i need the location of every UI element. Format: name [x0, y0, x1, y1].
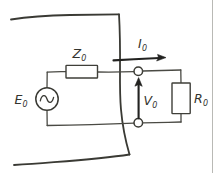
source-label-sub: 0 [23, 100, 28, 109]
output-terminal-bottom-circle [134, 118, 143, 127]
wire-load-top [143, 70, 181, 71]
circuit-diagram-canvas: Z0 E0 I0 V0 R0 [0, 0, 220, 173]
series-impedance-box [66, 65, 98, 78]
current-label-sub: 0 [142, 44, 147, 53]
output-terminal-top-circle [134, 67, 143, 76]
boundary-top-edge [11, 14, 119, 19]
boundary-vertical-edge [119, 14, 130, 154]
impedance-label: Z0 [72, 46, 87, 63]
wire-top-left-segment [47, 72, 66, 73]
impedance-label-base: Z [72, 46, 82, 61]
circuit-diagram-svg: Z0 E0 I0 V0 R0 [0, 0, 220, 173]
load-label-sub: 0 [203, 99, 208, 108]
boundary-bottom-edge [14, 155, 130, 166]
current-label: I0 [138, 36, 147, 53]
load-resistor-box [172, 83, 190, 114]
load-label-base: R [194, 91, 203, 106]
wire-bottom-rail [47, 123, 134, 125]
voltage-label-sub: 0 [152, 101, 157, 110]
source-label: E0 [15, 92, 28, 109]
impedance-label-sub: 0 [81, 54, 86, 63]
source-label-base: E [15, 92, 23, 107]
voltage-label: V0 [144, 93, 158, 110]
load-label: R0 [194, 91, 208, 108]
wire-load-bottom [143, 122, 181, 123]
